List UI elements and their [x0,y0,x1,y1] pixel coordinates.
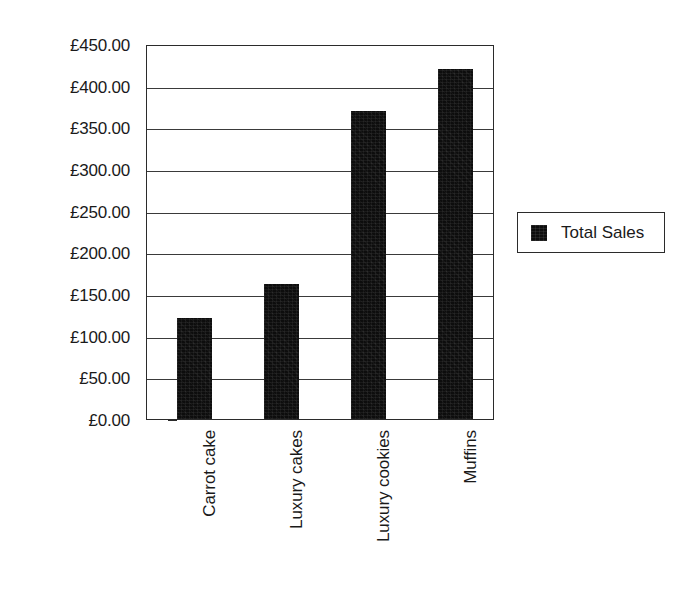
legend-swatch-total-sales [531,225,547,241]
bar [177,318,212,419]
legend-label-total-sales: Total Sales [561,224,644,241]
y-axis-tick-label: £450.00 [30,37,130,54]
x-axis-category-label: Luxury cookies [375,430,392,542]
x-axis-category-label: Carrot cake [201,430,218,517]
bar [351,111,386,419]
bar [264,284,299,419]
bar-chart-figure: £0.00£50.00£100.00£150.00£200.00£250.00£… [0,0,692,600]
y-axis-tick-label: £0.00 [30,412,130,429]
legend: Total Sales [517,212,665,253]
y-axis-tick-mark [168,420,177,421]
plot-area [146,45,494,420]
y-axis-tick-label: £350.00 [30,120,130,137]
y-axis-tick-label: £150.00 [30,287,130,304]
y-axis-tick-label: £100.00 [30,329,130,346]
x-axis-category-label: Luxury cakes [288,430,305,529]
y-axis-tick-label: £200.00 [30,245,130,262]
y-axis-tick-label: £250.00 [30,204,130,221]
y-axis: £0.00£50.00£100.00£150.00£200.00£250.00£… [30,45,130,420]
y-axis-tick-label: £400.00 [30,79,130,96]
y-axis-tick-label: £50.00 [30,370,130,387]
y-axis-tick-label: £300.00 [30,162,130,179]
bar [438,69,473,419]
x-axis-category-label: Muffins [462,430,479,484]
